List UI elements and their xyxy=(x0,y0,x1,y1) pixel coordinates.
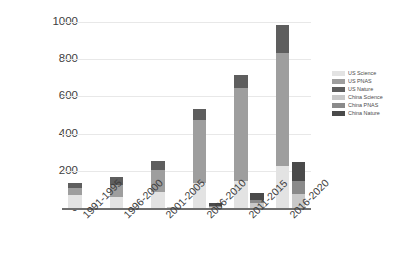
legend-swatch-icon xyxy=(332,103,345,108)
legend-label: US PNAS xyxy=(348,78,372,84)
bar-segment xyxy=(193,109,207,120)
bar-segment xyxy=(193,120,207,183)
plot-area xyxy=(62,22,311,208)
x-axis-tick-label: 2001-2005 xyxy=(163,212,171,220)
x-axis-tick-label: 1996-2000 xyxy=(121,212,129,220)
x-axis-tick-label: 2006-2010 xyxy=(204,212,212,220)
legend-item: China PNAS xyxy=(332,102,383,108)
legend-label: China Nature xyxy=(348,110,380,116)
bar-segment xyxy=(110,197,124,208)
x-axis-tick-label: 1991-1995 xyxy=(80,212,88,220)
legend-item: China Science xyxy=(332,94,383,100)
legend-swatch-icon xyxy=(332,87,345,92)
legend-item: US Science xyxy=(332,70,383,76)
legend-item: US PNAS xyxy=(332,78,383,84)
bar-segment xyxy=(276,25,290,53)
bar-segment xyxy=(234,88,248,181)
bar-segment xyxy=(234,75,248,88)
bar-segment xyxy=(292,181,306,194)
legend-swatch-icon xyxy=(332,95,345,100)
x-axis-tick-label: 2016-2020 xyxy=(287,212,295,220)
legend-label: China PNAS xyxy=(348,102,378,108)
legend-swatch-icon xyxy=(332,111,345,116)
bar-segment xyxy=(292,162,306,182)
legend-item: US Nature xyxy=(332,86,383,92)
legend-label: US Science xyxy=(348,70,376,76)
bar-segment xyxy=(68,195,82,208)
bar-segment xyxy=(151,161,165,170)
legend-label: US Nature xyxy=(348,86,373,92)
bar-us-1991-1995 xyxy=(68,183,82,208)
bar-segment xyxy=(68,188,82,196)
chart-legend: US ScienceUS PNASUS NatureChina ScienceC… xyxy=(332,70,383,116)
publications-bar-chart: Number of Publications 02004006008001000… xyxy=(0,0,396,272)
legend-item: China Nature xyxy=(332,110,383,116)
legend-swatch-icon xyxy=(332,79,345,84)
legend-swatch-icon xyxy=(332,71,345,76)
x-axis-tick-label: 2011-2015 xyxy=(246,212,254,220)
bar-segment xyxy=(276,53,290,166)
legend-label: China Science xyxy=(348,94,383,100)
